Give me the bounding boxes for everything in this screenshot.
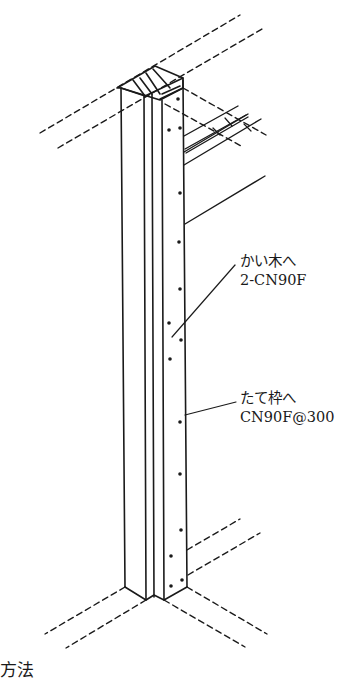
bottom-dashed-wall-lines	[45, 519, 267, 648]
nail-marks	[167, 97, 184, 588]
column-edges	[121, 80, 187, 600]
annotation-stud-line1: たて枠へ	[240, 389, 334, 408]
member-ticks	[213, 118, 251, 135]
caption-text: 方法	[0, 660, 34, 680]
column-bottom	[125, 587, 187, 600]
annotation-blocking-line1: かい木へ	[240, 252, 306, 271]
right-framing-members	[184, 106, 265, 224]
annotation-blocking: かい木へ 2-CN90F	[240, 252, 306, 290]
top-dashed-wall-lines	[40, 15, 266, 148]
annotation-stud-line2: CN90F@300	[240, 408, 334, 427]
annotation-blocking-line2: 2-CN90F	[240, 271, 306, 290]
annotation-stud: たて枠へ CN90F@300	[240, 389, 334, 427]
